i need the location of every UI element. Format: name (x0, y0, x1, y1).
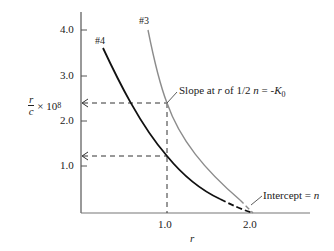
intercept-var-n: n (314, 189, 320, 201)
curve-4-extrapolation (220, 199, 253, 213)
x-axis-label: r (190, 233, 194, 244)
y-axis-multiplier: × 10 (37, 100, 57, 112)
chart: 4.0 3.0 2.0 1.0 1.0 2.0 r r c × 108 #4 #… (0, 0, 334, 251)
slope-subscript: 0 (281, 90, 285, 99)
y-axis-label: r c × 108 (28, 94, 61, 117)
intercept-annotation: Intercept = n (263, 190, 319, 201)
intercept-leader (251, 196, 262, 205)
series-label-3: #3 (139, 16, 149, 26)
x-tick-label: 1.0 (158, 219, 172, 230)
y-tick-label: 3.0 (60, 70, 74, 81)
curve-4 (103, 48, 220, 199)
y-tick-label: 1.0 (60, 160, 74, 171)
slope-leader (167, 92, 177, 103)
slope-text: of 1/2 (222, 84, 253, 96)
slope-annotation: Slope at r of 1/2 n = -K0 (179, 85, 285, 99)
y-axis-fraction: r c (28, 94, 34, 117)
y-axis-denominator: c (29, 106, 34, 117)
x-tick-label: 2.0 (243, 219, 257, 230)
slope-text: Slope at (179, 84, 218, 96)
series-label-4: #4 (95, 36, 105, 46)
intercept-text: Intercept = (263, 189, 314, 201)
y-tick-label: 2.0 (60, 115, 74, 126)
slope-text: = - (259, 84, 274, 96)
chart-canvas (0, 0, 334, 251)
y-tick-label: 4.0 (60, 24, 74, 35)
y-axis-exponent: 8 (57, 101, 61, 110)
curve-3 (148, 30, 240, 200)
